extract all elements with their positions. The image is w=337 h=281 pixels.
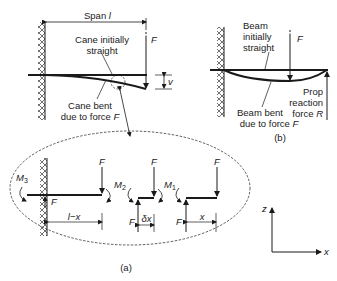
wall-hatch-icon (217, 27, 224, 117)
deflection-label: v (168, 76, 173, 87)
label-line: straight (62, 45, 142, 56)
dim-x: x (194, 211, 210, 222)
beam-initial-label: Beam initially straight (243, 20, 274, 53)
free-body-detail (10, 131, 250, 245)
moment-symbol: M (114, 179, 122, 190)
span-text: Span (84, 10, 109, 21)
caption-b: (b) (270, 132, 290, 143)
moment-subscript: 2 (122, 184, 126, 191)
wall-hatch-icon (38, 22, 45, 120)
beam-bent-label: Beam bent due to force F (229, 107, 309, 129)
coordinate-axes (272, 208, 321, 252)
force-top-middle: F (151, 156, 157, 167)
label-line: due to force F (50, 111, 130, 122)
force-bottom-right: F (176, 216, 182, 227)
label-text: due to force (61, 111, 114, 122)
moment-m1-label: M1 (164, 179, 176, 193)
label-line: straight (243, 42, 274, 53)
label-force: F (114, 111, 120, 122)
force-label-b: F (297, 33, 303, 44)
dim-l-minus-x: l−x (62, 211, 86, 222)
moment-m2-label: M2 (114, 179, 126, 193)
moment-subscript: 3 (24, 177, 28, 184)
label-force: F (293, 118, 299, 129)
label-line: initially (243, 31, 274, 42)
label-text: due to force (240, 118, 293, 129)
dim-delta-x: δx (139, 213, 154, 224)
label-line: Cane bent (50, 100, 130, 111)
cane-initial-label: Cane initially straight (62, 34, 142, 56)
label-line: due to force F (229, 118, 309, 129)
axis-z-label: z (262, 203, 267, 214)
wall-hatch-icon (40, 158, 47, 236)
force-label-a: F (151, 34, 157, 45)
label-line: Beam bent (229, 107, 309, 118)
force-top-right: F (214, 156, 220, 167)
force-bottom-left: F (51, 196, 57, 207)
moment-symbol: M (164, 179, 172, 190)
moment-m3-label: M3 (16, 172, 28, 186)
moment-subscript: 1 (172, 184, 176, 191)
span-var: l (109, 10, 111, 21)
cane-bent-label: Cane bent due to force F (50, 100, 130, 122)
caption-a: (a) (116, 262, 136, 273)
label-line: Beam (243, 20, 274, 31)
axis-x-label: x (324, 246, 329, 257)
span-label: Span l (84, 10, 111, 21)
label-force: R (316, 108, 323, 119)
label-line: Cane initially (62, 34, 142, 45)
moment-symbol: M (16, 172, 24, 183)
force-top-left: F (99, 156, 105, 167)
label-line: Prop (272, 86, 323, 97)
force-bottom-middle: F (129, 216, 135, 227)
